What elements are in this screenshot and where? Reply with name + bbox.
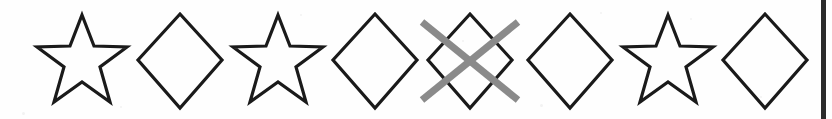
shape-sequence-row [0,0,832,119]
star-outline-icon [623,15,713,102]
worksheet-canvas [0,0,832,119]
star-outline-icon [233,15,323,102]
page-edge-bar [821,0,826,119]
shape-item-diamond-6[interactable] [520,10,620,110]
shape-item-diamond-4[interactable] [325,10,425,110]
star-outline-icon [37,15,127,102]
diamond-outline-icon [333,14,417,108]
shape-item-star-7[interactable] [618,10,718,110]
shape-item-star-1[interactable] [32,10,132,110]
diamond-outline-icon [723,14,807,108]
shape-item-diamond-5[interactable] [420,10,520,110]
shape-item-star-3[interactable] [228,10,328,110]
shape-item-diamond-2[interactable] [130,10,230,110]
shape-item-diamond-8[interactable] [715,10,815,110]
diamond-outline-icon [138,14,222,108]
diamond-outline-icon [528,14,612,108]
